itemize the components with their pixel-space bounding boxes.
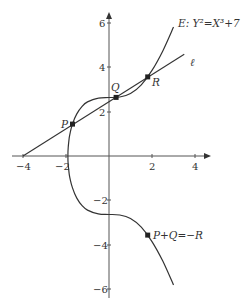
y-tick-label: 6	[99, 18, 105, 29]
point-label-neg-r: P+Q=−R	[152, 229, 203, 242]
y-tick-label: −2	[93, 195, 108, 206]
y-tick-label: −4	[93, 240, 108, 251]
y-axis-arrow-icon	[106, 12, 112, 19]
y-tick-label: 4	[99, 62, 105, 73]
y-tick-label: 2	[99, 107, 105, 118]
x-tick-label: 4	[192, 161, 198, 172]
line-label: ℓ	[190, 56, 195, 68]
point-label-r: R	[151, 76, 160, 88]
point-marker	[145, 233, 150, 238]
x-axis-arrow-icon	[204, 153, 211, 159]
point-marker	[145, 74, 150, 79]
curve-label: E: Y²=X³+7	[177, 17, 240, 29]
y-tick-label: −6	[93, 284, 108, 295]
point-label-p: P	[60, 118, 69, 130]
x-tick-label: 2	[149, 161, 155, 172]
x-tick-label: −4	[16, 161, 31, 172]
point-label-q: Q	[111, 81, 120, 94]
elliptic-curve-diagram: −4 −2 2 4 6 4 2 −2 −4 −6 E: Y²=X³+7 ℓ P …	[0, 0, 242, 304]
point-marker	[114, 95, 119, 100]
point-marker	[70, 122, 75, 127]
